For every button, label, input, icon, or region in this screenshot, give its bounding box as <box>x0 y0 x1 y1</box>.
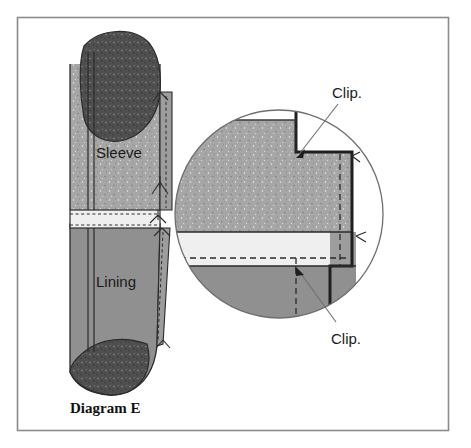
lining-label: Lining <box>96 273 136 290</box>
clip-bottom-label: Clip. <box>331 330 361 347</box>
figure-caption: Diagram E <box>70 400 140 416</box>
diagram-figure: Sleeve Lining <box>0 0 471 448</box>
detail-lining-block <box>150 266 356 336</box>
detail-enlargement <box>150 105 390 340</box>
diagram-canvas: Sleeve Lining <box>0 0 471 448</box>
clip-top-label: Clip. <box>332 84 362 101</box>
main-sleeve-view: Sleeve Lining <box>70 31 172 395</box>
sleeve-label: Sleeve <box>96 144 142 161</box>
